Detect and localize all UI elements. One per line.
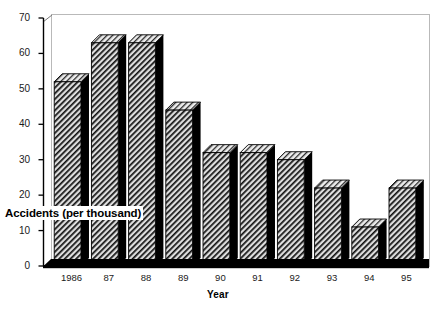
bar: [389, 180, 424, 266]
y-axis-tick-labels: 010203040506070: [0, 0, 34, 310]
bar-side-face: [304, 152, 312, 266]
bar-side-face: [193, 102, 201, 266]
y-tick-label: 10: [4, 226, 30, 236]
bar-front-face: [277, 160, 304, 266]
bar-side-face: [81, 74, 89, 266]
bar: [129, 35, 164, 266]
bar: [315, 180, 350, 266]
bar-front-face: [203, 153, 230, 266]
x-tick-label: 88: [126, 272, 166, 283]
x-tick-label: 90: [200, 272, 240, 283]
x-tick-label: 92: [275, 272, 315, 283]
bar-chart: 010203040506070 1986878889909192939495 A…: [0, 0, 436, 310]
bar-side-face: [155, 35, 163, 266]
x-tick-label: 93: [312, 272, 352, 283]
bar-side-face: [267, 145, 275, 266]
x-tick-label: 87: [89, 272, 129, 283]
y-axis: [39, 18, 44, 267]
x-tick-label: 91: [238, 272, 278, 283]
bar-side-face: [416, 180, 424, 266]
y-tick-label: 60: [4, 48, 30, 58]
y-tick-label: 20: [4, 190, 30, 200]
x-axis: [43, 259, 429, 268]
bar: [277, 152, 312, 266]
y-tick-label: 50: [4, 84, 30, 94]
bar: [352, 219, 387, 266]
bar-front-face: [389, 188, 416, 266]
bar: [240, 145, 275, 266]
bar-front-face: [54, 82, 81, 266]
x-axis-title: Year: [0, 289, 436, 300]
bar: [91, 35, 126, 266]
y-tick-label: 40: [4, 119, 30, 129]
chart-canvas: [0, 0, 436, 310]
y-tick-label: 0: [4, 261, 30, 271]
y-tick-label: 30: [4, 155, 30, 165]
y-tick-label: 70: [4, 13, 30, 23]
bar-side-face: [341, 180, 349, 266]
bar-side-face: [118, 35, 126, 266]
x-tick-label: 89: [163, 272, 203, 283]
x-tick-label: 1986: [52, 272, 92, 283]
bar: [203, 145, 238, 266]
x-tick-label: 94: [349, 272, 389, 283]
bar-front-face: [166, 110, 193, 266]
bar: [166, 102, 201, 266]
bar-front-face: [91, 43, 118, 266]
bar: [54, 74, 89, 266]
y-axis-title: Accidents (per thousand): [4, 206, 143, 220]
bar-side-face: [230, 145, 238, 266]
bar-front-face: [129, 43, 156, 266]
bar-front-face: [315, 188, 342, 266]
x-tick-label: 95: [386, 272, 426, 283]
bar-front-face: [240, 153, 267, 266]
